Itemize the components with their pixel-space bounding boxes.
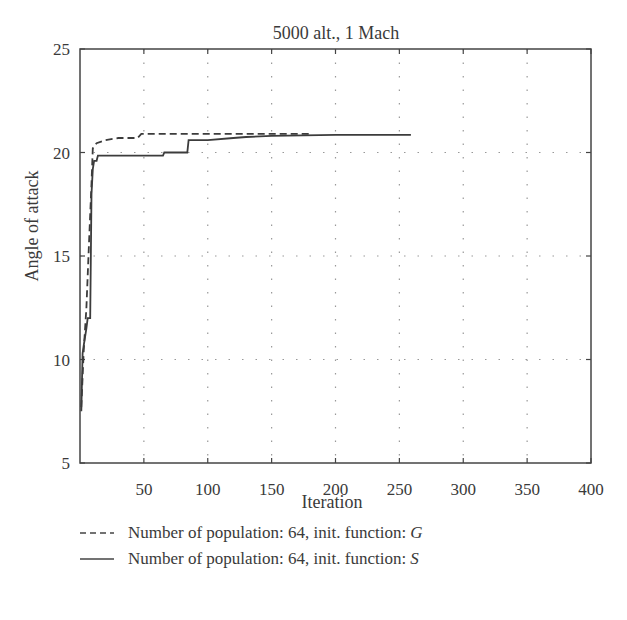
legend-label-g: Number of population: 64, init. function…	[128, 523, 423, 543]
line-chart: 5000 alt., 1 Mach Iteration Angle of att…	[0, 0, 627, 580]
chart-title: 5000 alt., 1 Mach	[273, 23, 399, 43]
legend: Number of population: 64, init. function…	[80, 520, 423, 572]
dashed-line-icon	[80, 528, 114, 538]
y-tick-label: 10	[53, 351, 70, 370]
y-tick-label: 20	[53, 144, 70, 163]
legend-label-s: Number of population: 64, init. function…	[128, 549, 419, 569]
series-lines	[81, 134, 411, 411]
x-tick-label: 300	[451, 480, 477, 499]
x-tick-label: 250	[387, 480, 413, 499]
solid-line-icon	[80, 554, 114, 564]
x-tick-label: 100	[195, 480, 221, 499]
grid-lines	[80, 49, 591, 463]
x-tick-label: 350	[514, 480, 540, 499]
series-s-line	[81, 135, 411, 411]
legend-item-s: Number of population: 64, init. function…	[80, 546, 423, 572]
x-tick-label: 150	[259, 480, 285, 499]
y-axis-label: Angle of attack	[22, 171, 42, 282]
series-g-line	[81, 134, 310, 407]
y-tick-label: 25	[53, 40, 70, 59]
y-tick-label: 15	[53, 247, 70, 266]
x-tick-label: 200	[323, 480, 349, 499]
x-tick-label: 400	[578, 480, 604, 499]
y-tick-label: 5	[62, 454, 71, 473]
legend-item-g: Number of population: 64, init. function…	[80, 520, 423, 546]
x-tick-label: 50	[135, 480, 152, 499]
